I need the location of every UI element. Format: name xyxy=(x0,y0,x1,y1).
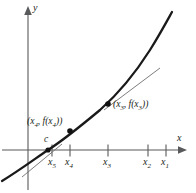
point-x4 xyxy=(67,128,73,134)
newtons-method-figure: y x c x5 x4 x3 x2 x1 (x4, f(x4)) (x3, f(… xyxy=(0,0,196,193)
tick-label-x1: x1 xyxy=(161,157,169,170)
x-axis-label: x xyxy=(177,133,181,143)
point-label-x4: (x4, f(x4)) xyxy=(27,117,62,129)
point-label-x3: (x3, f(x3)) xyxy=(113,100,148,112)
x-axis-arrow-icon xyxy=(178,146,187,154)
tick-label-x2: x2 xyxy=(143,157,151,170)
root-label-c: c xyxy=(44,135,48,145)
tick-label-x5: x5 xyxy=(48,157,56,170)
tick-label-x4: x4 xyxy=(65,157,73,170)
tick-label-x3: x3 xyxy=(103,157,111,170)
point-c xyxy=(45,147,50,152)
y-axis-arrow-icon xyxy=(24,6,32,15)
y-axis-label: y xyxy=(33,3,37,13)
point-x3 xyxy=(105,101,111,107)
x-axis xyxy=(2,146,187,154)
